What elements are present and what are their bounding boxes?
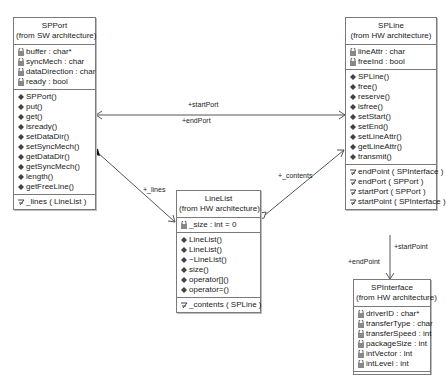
attribute: driverID : char* [357, 309, 427, 319]
private-attribute-icon [357, 320, 365, 328]
private-attribute-icon [357, 340, 365, 348]
attribute: packageSize : int [357, 339, 427, 349]
operation: SPPort() [17, 92, 92, 102]
operation: getLineAttr() [349, 142, 433, 152]
operations-section: SPPort() put() get() isready() setDataDi… [14, 90, 95, 195]
public-operation-icon [349, 113, 357, 121]
public-operation-icon [180, 246, 188, 254]
association-role-icon [349, 168, 357, 176]
operation: operator[]() [180, 275, 257, 285]
public-operation-icon [180, 256, 188, 264]
private-attribute-icon [357, 360, 365, 368]
class-linelist[interactable]: LineList (from HW architecture) _size : … [176, 190, 261, 313]
attribute: intVector : int [357, 349, 427, 359]
public-operation-icon [17, 133, 25, 141]
private-attribute-icon [17, 68, 25, 76]
class-package: (from HW architecture) [356, 293, 428, 303]
association: _lines ( LineList ) [17, 197, 92, 207]
operation: reserve() [349, 92, 433, 102]
class-name: SPPort [16, 21, 93, 31]
class-header: LineList (from HW architecture) [177, 191, 260, 218]
public-operation-icon [349, 73, 357, 81]
association: _contents ( SPLine ) [180, 300, 257, 310]
association-role-icon [180, 301, 188, 309]
operation: transmit() [349, 152, 433, 162]
class-header: SPInterface (from HW architecture) [354, 280, 430, 307]
public-operation-icon [17, 183, 25, 191]
class-package: (from HW architecture) [179, 204, 258, 214]
private-attribute-icon [349, 58, 357, 66]
association: endPort ( SPPort ) [349, 177, 433, 187]
operation: getFreeLine() [17, 182, 92, 192]
public-operation-icon [180, 236, 188, 244]
operation: setLineAttr() [349, 132, 433, 142]
private-attribute-icon [17, 48, 25, 56]
class-spline[interactable]: SPLine (from HW architecture) lineAttr :… [345, 17, 437, 210]
public-operation-icon [17, 93, 25, 101]
class-spinterface[interactable]: SPInterface (from HW architecture) drive… [353, 279, 431, 375]
private-attribute-icon [357, 310, 365, 318]
public-operation-icon [17, 143, 25, 151]
contents-role: +_contents [278, 172, 312, 179]
association: startPoint ( SPInterface ) [349, 197, 433, 207]
operation: operator=() [180, 285, 257, 295]
start-point-role: +startPoint [394, 243, 428, 250]
attribute: syncMech : char [17, 57, 92, 67]
operation: setEnd() [349, 122, 433, 132]
association-role-icon [17, 198, 25, 206]
association-role-icon [349, 178, 357, 186]
operation: get() [17, 112, 92, 122]
public-operation-icon [349, 133, 357, 141]
public-operation-icon [17, 123, 25, 131]
operation: isfree() [349, 102, 433, 112]
public-operation-icon [349, 143, 357, 151]
class-name: SPLine [348, 21, 434, 31]
class-package: (from HW architecture) [348, 31, 434, 41]
end-port-role: +endPort [182, 117, 211, 124]
class-package: (from SW architecture) [16, 31, 93, 41]
attribute: buffer : char* [17, 47, 92, 57]
operation: SPLine() [349, 72, 433, 82]
public-operation-icon [17, 173, 25, 181]
association-role-icon [349, 188, 357, 196]
operations-section: SPLine() free() reserve() isfree() setSt… [346, 70, 436, 165]
operation: getSyncMech() [17, 162, 92, 172]
private-attribute-icon [180, 221, 188, 229]
associations-section: _lines ( LineList ) [14, 195, 95, 209]
operation: setDataDir() [17, 132, 92, 142]
class-name: LineList [179, 194, 258, 204]
attribute: freeInd : bool [349, 57, 433, 67]
public-operation-icon [349, 83, 357, 91]
public-operation-icon [180, 276, 188, 284]
public-operation-icon [349, 103, 357, 111]
public-operation-icon [349, 153, 357, 161]
attribute: dataDirection : char [17, 67, 92, 77]
public-operation-icon [17, 103, 25, 111]
attributes-section: _size : int = 0 [177, 218, 260, 233]
public-operation-icon [17, 163, 25, 171]
operation: free() [349, 82, 433, 92]
end-point-role: +endPoint [348, 258, 380, 265]
lines-role: +_lines [143, 186, 165, 193]
private-attribute-icon [357, 330, 365, 338]
operations-section [354, 372, 430, 374]
public-operation-icon [180, 266, 188, 274]
association: startPort ( SPPort ) [349, 187, 433, 197]
class-header: SPPort (from SW architecture) [14, 18, 95, 45]
operation: length() [17, 172, 92, 182]
public-operation-icon [17, 113, 25, 121]
attributes-section: driverID : char* transferType : char tra… [354, 307, 430, 372]
operation: setStart() [349, 112, 433, 122]
operation: size() [180, 265, 257, 275]
private-attribute-icon [349, 48, 357, 56]
attribute: intLevel : int [357, 359, 427, 369]
attribute: _size : int = 0 [180, 220, 257, 230]
operations-section: LineList() LineList() ~LineList() size()… [177, 233, 260, 298]
operation: ~LineList() [180, 255, 257, 265]
class-spport[interactable]: SPPort (from SW architecture) buffer : c… [13, 17, 96, 210]
association-role-icon [349, 198, 357, 206]
operation: getDataDir() [17, 152, 92, 162]
start-port-role: +startPort [188, 101, 219, 108]
association: endPoint ( SPInterface ) [349, 167, 433, 177]
private-attribute-icon [357, 350, 365, 358]
